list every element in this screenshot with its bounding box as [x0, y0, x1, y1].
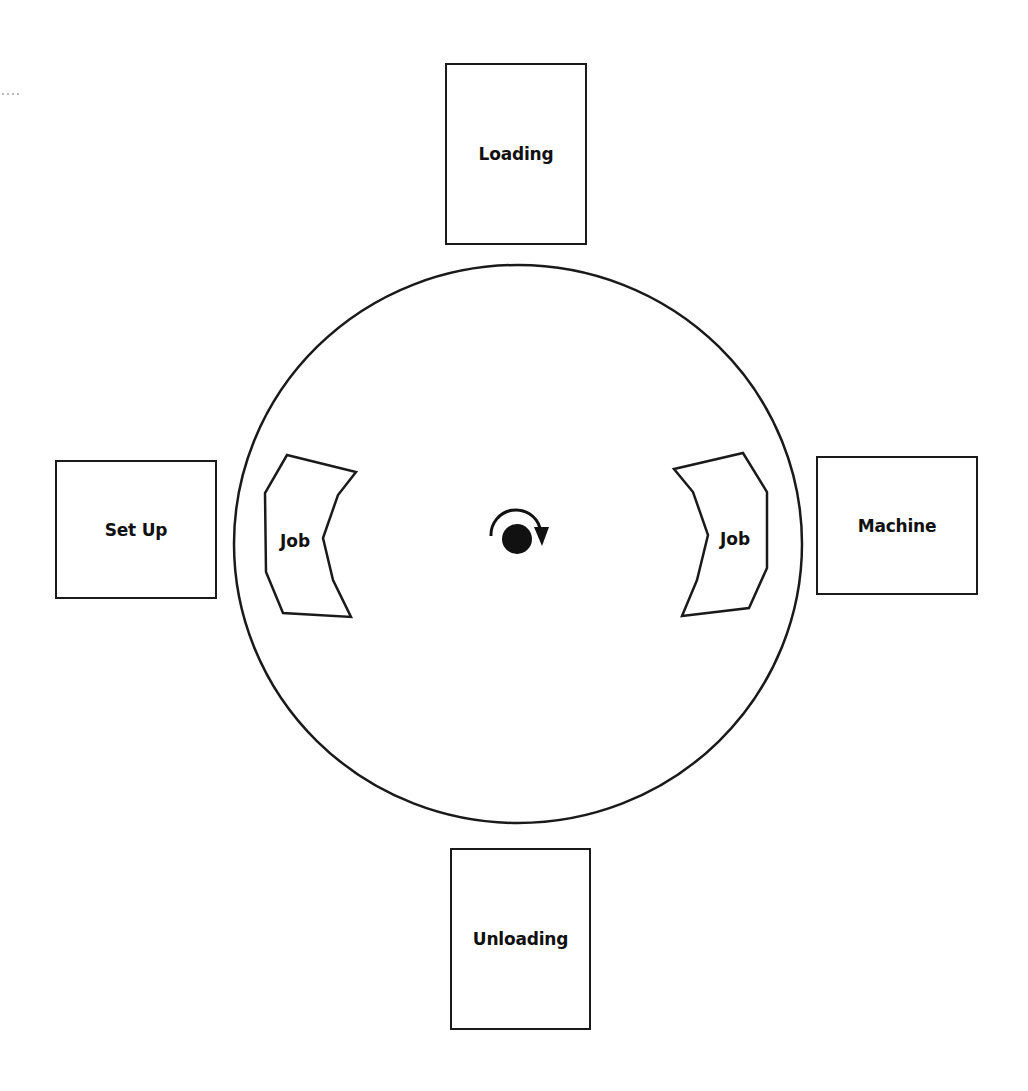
station-loading: Loading — [445, 63, 587, 245]
station-label: Machine — [858, 516, 937, 536]
station-setup: Set Up — [55, 460, 217, 599]
job-label-left: Job — [280, 531, 310, 551]
station-label: Loading — [479, 144, 554, 164]
station-label: Unloading — [473, 929, 568, 949]
job-label-right: Job — [720, 529, 750, 549]
station-label: Set Up — [105, 520, 168, 540]
station-unloading: Unloading — [450, 848, 591, 1030]
center-hub-icon — [502, 524, 532, 554]
job-fixture-left — [265, 455, 356, 617]
station-machine: Machine — [816, 456, 978, 595]
